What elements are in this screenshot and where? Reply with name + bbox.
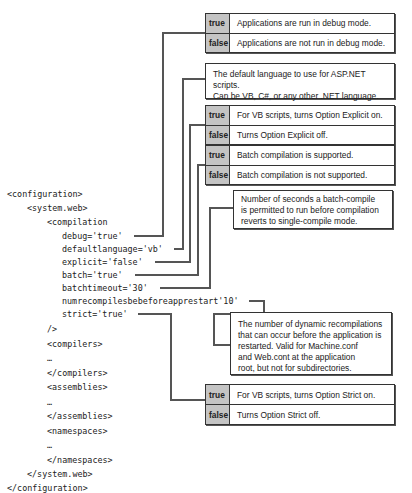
value-description: For VB scripts, turns Option Explicit on… — [230, 106, 383, 125]
callout-batchtimeout: Number of seconds a batch-compile is per… — [233, 190, 393, 229]
callout-explicit-false-row: false Turns Option Explicit off. — [206, 125, 394, 145]
connector-batch — [197, 164, 205, 166]
code-line-configuration-close: </configuration> — [7, 483, 88, 493]
value-key-false: false — [206, 34, 230, 53]
callout-numrecompiles: The number of dynamic recompilations tha… — [230, 312, 392, 375]
callout-batch: true Batch compilation is supported. fal… — [205, 145, 395, 185]
code-line-batchtimeout: batchtimeout='30' — [62, 283, 148, 293]
code-line-namespaces-open: <namespaces> — [47, 426, 108, 436]
connector-batch — [197, 164, 199, 276]
value-key-true: true — [206, 106, 230, 125]
note-line: and Web.cont at the application — [238, 352, 384, 363]
code-line-compilers-close: </compilers> — [47, 368, 108, 378]
value-key-true: true — [206, 146, 230, 165]
note-line: is permitted to run before compilation — [241, 205, 385, 216]
note-line: Number of seconds a batch-compile — [241, 194, 385, 205]
value-key-false: false — [206, 126, 230, 145]
code-line-strict: strict='true' — [62, 309, 128, 319]
connector-batchtimeout — [209, 207, 211, 289]
connector-numrecompiles — [213, 344, 230, 346]
code-line-defaultlanguage: defaultlanguage='vb' — [62, 244, 163, 254]
connector-defaultlanguage — [182, 78, 184, 250]
code-line-namespaces-ellipsis: … — [47, 440, 52, 450]
code-line-assemblies-ellipsis: … — [47, 397, 52, 407]
callout-defaultlanguage: The default language to use for ASP.NET … — [205, 63, 395, 99]
code-line-compilers-ellipsis: … — [47, 353, 52, 363]
connector-explicit — [155, 261, 191, 263]
callout-debug-false-row: false Applications are not run in debug … — [206, 33, 394, 53]
connector-batchtimeout — [209, 207, 233, 209]
connector-strict — [170, 313, 172, 401]
value-key-true: true — [206, 385, 230, 404]
callout-debug-true-row: true Applications are run in debug mode. — [206, 14, 394, 33]
note-line: that can occur before the application is — [238, 330, 384, 341]
value-description: Batch compilation is not supported. — [230, 166, 367, 185]
code-line-assemblies-close: </assemblies> — [47, 411, 113, 421]
callout-batch-false-row: false Batch compilation is not supported… — [206, 165, 394, 185]
connector-defaultlanguage — [182, 78, 205, 80]
callout-strict-true-row: true For VB scripts, turns Option Strict… — [206, 385, 394, 404]
note-line: restarted. Valid for Machine.conf — [238, 341, 384, 352]
callout-strict-false-row: false Turns Option Strict off. — [206, 404, 394, 424]
note-line: The number of dynamic recompilations — [238, 319, 384, 330]
callout-debug: true Applications are run in debug mode.… — [205, 13, 395, 53]
code-line-compilers-open: <compilers> — [47, 339, 102, 349]
code-line-numrecompiles: numrecompilesbebeforeapprestart'10' — [62, 296, 238, 306]
connector-explicit — [189, 124, 205, 126]
connector-numrecompiles — [213, 313, 215, 346]
code-line-configuration-open: <configuration> — [7, 189, 83, 199]
callout-explicit: true For VB scripts, turns Option Explic… — [205, 105, 395, 145]
callout-batch-true-row: true Batch compilation is supported. — [206, 146, 394, 165]
value-description: Turns Option Strict off. — [230, 405, 320, 424]
value-key-false: false — [206, 405, 230, 424]
callout-strict: true For VB scripts, turns Option Strict… — [205, 384, 395, 425]
code-line-system-web-close: </system.web> — [27, 469, 93, 479]
connector-strict — [170, 399, 205, 401]
code-line-compilation-open: <compilation — [47, 217, 108, 227]
code-line-explicit: explicit='false' — [62, 257, 143, 267]
callout-explicit-true-row: true For VB scripts, turns Option Explic… — [206, 106, 394, 125]
value-description: Batch compilation is supported. — [230, 146, 353, 165]
connector-explicit — [189, 124, 191, 263]
note-line: Can be VB, C#, or any other .NET languag… — [213, 91, 387, 102]
note-line: The default language to use for ASP.NET … — [213, 69, 387, 91]
code-line-batch: batch='true' — [62, 270, 123, 280]
value-key-true: true — [206, 14, 230, 33]
code-line-debug: debug='true' — [62, 231, 123, 241]
connector-debug — [162, 32, 205, 34]
code-line-system-web-open: <system.web> — [27, 203, 88, 213]
connector-batchtimeout — [160, 287, 211, 289]
code-line-namespaces-close: </namespaces> — [47, 455, 113, 465]
connector-strict — [138, 313, 172, 315]
code-line-compilation-close: /> — [47, 324, 57, 334]
note-line: reverts to single-compile mode. — [241, 216, 385, 227]
connector-batch — [135, 274, 199, 276]
note-line: root, but not for subdirectories. — [238, 363, 384, 374]
value-description: Applications are not run in debug mode. — [230, 34, 385, 53]
code-line-assemblies-open: <assemblies> — [47, 382, 108, 392]
value-description: Turns Option Explicit off. — [230, 126, 328, 145]
value-key-false: false — [206, 166, 230, 185]
value-description: Applications are run in debug mode. — [230, 14, 371, 33]
connector-debug — [162, 32, 164, 237]
value-description: For VB scripts, turns Option Strict on. — [230, 385, 375, 404]
connector-debug — [134, 235, 164, 237]
